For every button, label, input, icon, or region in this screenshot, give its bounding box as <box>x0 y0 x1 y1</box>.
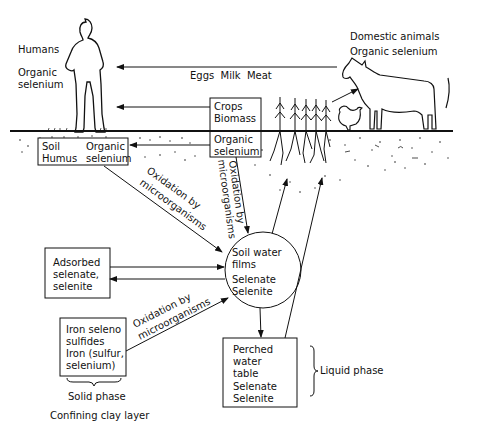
hen-icon <box>339 106 362 130</box>
food-flow-label: Eggs Milk Meat <box>190 70 272 81</box>
human-figure-icon <box>66 19 105 132</box>
soilwater-label-3: Selenate <box>232 274 276 285</box>
liquid-phase-brace <box>310 346 318 396</box>
animals-label: Domestic animals <box>350 31 439 42</box>
iron-label-3: Iron (sulfur, <box>66 348 124 359</box>
perched-label-3: table <box>233 368 258 379</box>
iron-label-1: Iron seleno <box>66 324 121 335</box>
soilwater-label-4: Selenite <box>232 286 273 297</box>
cow-icon <box>343 58 449 129</box>
adsorbed-label-3: selenite <box>53 281 92 292</box>
humus-organic-label: Organic <box>86 141 125 152</box>
humus-label: Humus <box>42 153 77 164</box>
humus-selenium-label: selenium <box>86 153 132 164</box>
soil-label: Soil <box>42 141 60 152</box>
humans-selenium-label: selenium <box>18 79 64 90</box>
biomass-label: Biomass <box>214 113 256 124</box>
solid-phase-label: Solid phase <box>68 391 126 402</box>
iron-label-2: sulfides <box>66 336 104 347</box>
adsorbed-label-1: Adsorbed <box>53 257 100 268</box>
plant-organic-label: Organic <box>214 134 253 145</box>
perched-label-4: Selenate <box>233 381 277 392</box>
iron-label-4: selenium) <box>66 360 115 371</box>
humans-organic-label: Organic <box>18 67 57 78</box>
humans-label: Humans <box>18 44 59 55</box>
selenium-cycle-diagram: Humans Organic selenium Domestic animals… <box>0 0 477 433</box>
perched-label-2: water <box>233 356 262 367</box>
perched-label-5: Selenite <box>233 393 274 404</box>
liquid-phase-label: Liquid phase <box>320 365 384 376</box>
confining-clay-label: Confining clay layer <box>50 410 150 421</box>
soilwater-to-perched-arrow <box>260 308 261 337</box>
soilwater-label-2: films <box>232 259 256 270</box>
adsorbed-label-2: selenate, <box>53 269 99 280</box>
crops-label: Crops <box>214 101 243 112</box>
soilwater-label-1: Soil water <box>232 247 283 258</box>
plant-selenium-label: selenium <box>214 146 260 157</box>
solid-phase-brace <box>67 378 121 386</box>
crops-to-animals-arrow <box>332 89 358 102</box>
animals-organic-label: Organic selenium <box>350 46 438 57</box>
perched-label-1: Perched <box>233 344 273 355</box>
soilwater-to-roots-arrow <box>272 179 287 234</box>
